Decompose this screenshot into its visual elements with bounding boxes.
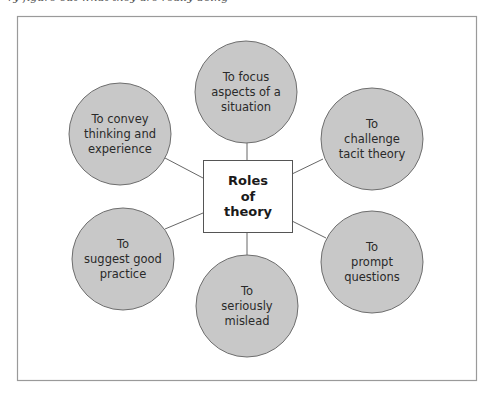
- node-label-focus: To focus aspects of a situation: [196, 42, 296, 142]
- node-label-mislead: To seriously mislead: [197, 256, 297, 356]
- node-label-prompt: To prompt questions: [322, 212, 422, 312]
- node-label-suggest: To suggest good practice: [73, 209, 173, 309]
- center-label: Roles of theory: [203, 160, 293, 233]
- node-label-convey: To convey thinking and experience: [70, 84, 170, 184]
- node-label-challenge: To challenge tacit theory: [322, 89, 422, 189]
